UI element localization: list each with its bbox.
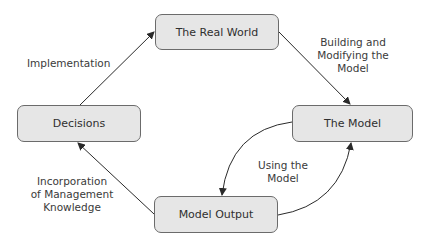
node-real-world: The Real World xyxy=(155,14,279,50)
edge-label-building: Building and Modifying the Model xyxy=(313,36,393,75)
node-model-output-label: Model Output xyxy=(179,208,254,221)
building-line-3: Model xyxy=(313,62,393,75)
edge-label-using: Using the Model xyxy=(253,159,313,185)
node-decisions-label: Decisions xyxy=(53,117,106,130)
incorporation-line-1: Incorporation xyxy=(22,175,122,188)
node-model-label: The Model xyxy=(324,117,381,130)
building-line-2: Modifying the xyxy=(313,49,393,62)
incorporation-line-3: Knowledge xyxy=(22,201,122,214)
implementation-text: Implementation xyxy=(27,57,110,69)
diagram-canvas: The Real World The Model Decisions Model… xyxy=(0,0,430,245)
node-real-world-label: The Real World xyxy=(176,26,259,39)
node-model-output: Model Output xyxy=(154,196,278,233)
edge-label-implementation: Implementation xyxy=(27,57,110,70)
node-decisions: Decisions xyxy=(17,105,141,142)
node-model: The Model xyxy=(292,105,413,142)
edge-label-incorporation: Incorporation of Management Knowledge xyxy=(22,175,122,214)
incorporation-line-2: of Management xyxy=(22,188,122,201)
using-line-2: Model xyxy=(253,172,313,185)
using-line-1: Using the xyxy=(253,159,313,172)
building-line-1: Building and xyxy=(313,36,393,49)
